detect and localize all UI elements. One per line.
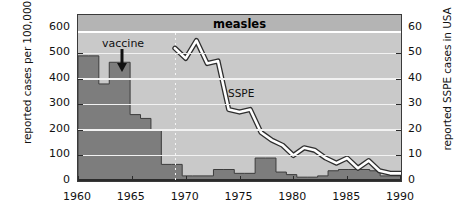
y-tickmark-right (396, 155, 401, 156)
y-tickmark-left (78, 79, 83, 80)
x-axis-tick-label: 1985 (324, 190, 368, 203)
sspe-annotation-label: SSPE (228, 87, 254, 99)
x-axis-tick-label: 1990 (378, 190, 422, 203)
y-axis-left-tick-label: 200 (36, 122, 70, 135)
y-axis-left-tick-label: 400 (36, 71, 70, 84)
y-tickmark-right (396, 104, 401, 105)
chart-figure: reported cases per 100,000 population re… (0, 0, 471, 212)
sspe-line-outline (175, 41, 401, 174)
y-axis-left-title: reported cases per 100,000 population (21, 0, 33, 144)
y-tickmark-right (396, 53, 401, 54)
chart-title: measles (78, 17, 401, 31)
y-axis-right-tick-label: 0 (408, 173, 442, 186)
x-axis-tick-label: 1960 (55, 190, 99, 203)
y-axis-right-tick-label: 20 (408, 122, 442, 135)
plot-area: measles vaccine SSPE (77, 14, 402, 182)
gridline (78, 78, 401, 80)
gridline (78, 104, 401, 106)
y-axis-right-title: reported SSPE cases in USA (441, 4, 453, 154)
gridline (78, 129, 401, 131)
y-axis-right-ticks: 0102030405060 (408, 0, 442, 212)
vaccine-down-arrow-icon (116, 49, 128, 73)
y-axis-left-ticks: 0100200300400500600 (36, 0, 70, 212)
y-tickmark-right (396, 79, 401, 80)
x-axis-tick-label: 1965 (109, 190, 153, 203)
y-axis-left-tick-label: 0 (36, 173, 70, 186)
y-tickmark-left (78, 53, 83, 54)
chart-title-band: measles (78, 15, 401, 33)
x-axis-tick-label: 1975 (217, 190, 261, 203)
y-tickmark-right (396, 130, 401, 131)
plot-inner: measles vaccine SSPE (78, 15, 401, 181)
x-axis-ticks: 1960196519701975198019851990 (0, 190, 471, 206)
sspe-start-marker-line (175, 33, 176, 181)
y-tickmark-left (78, 104, 83, 105)
x-axis-tick-label: 1970 (163, 190, 207, 203)
x-axis-baseline (78, 179, 401, 181)
y-tickmark-left (78, 130, 83, 131)
gridline (78, 155, 401, 157)
y-axis-left-tick-label: 100 (36, 147, 70, 160)
y-axis-left-tick-label: 600 (36, 20, 70, 33)
y-axis-right-tick-label: 30 (408, 96, 442, 109)
x-axis-tick-label: 1980 (270, 190, 314, 203)
y-axis-left-tick-label: 300 (36, 96, 70, 109)
y-axis-right-tick-label: 60 (408, 20, 442, 33)
y-axis-left-tick-label: 500 (36, 45, 70, 58)
y-axis-right-tick-label: 10 (408, 147, 442, 160)
y-axis-right-tick-label: 40 (408, 71, 442, 84)
y-tickmark-left (78, 155, 83, 156)
y-axis-right-tick-label: 50 (408, 45, 442, 58)
